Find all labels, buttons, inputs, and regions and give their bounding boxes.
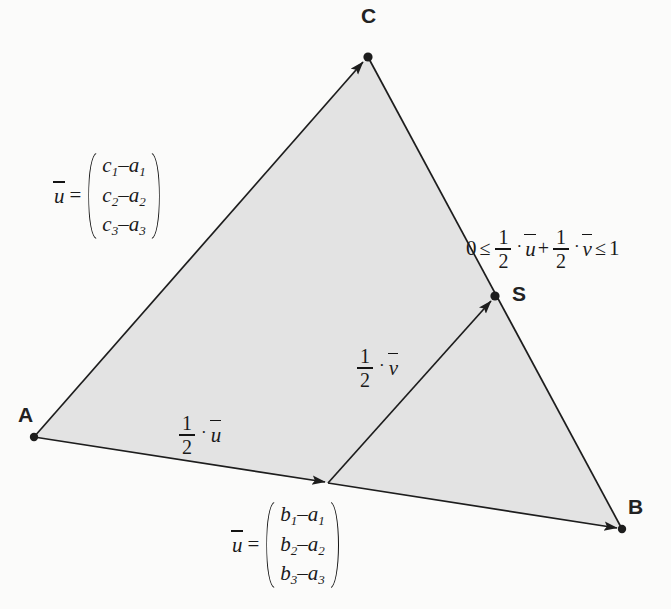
plus-sign: +: [537, 237, 550, 260]
point-a-dot: [30, 433, 38, 441]
half-v-variable: v: [389, 354, 398, 381]
vector-b-row-2: b2–a2: [280, 534, 325, 557]
multiplication-dot: ·: [377, 356, 387, 379]
vector-c-rows: c1–a1 c2–a2 c3–a3: [100, 152, 147, 240]
right-paren-icon: [328, 501, 339, 589]
point-label-c: C: [361, 5, 376, 26]
vector-b-row-1: b1–a1: [280, 504, 325, 527]
vector-c-matrix: c1–a1 c2–a2 c3–a3: [88, 152, 159, 240]
vector-c-row-2: c2–a2: [102, 185, 145, 208]
triangle-abc-fill: [34, 57, 622, 529]
multiplication-dot: ·: [514, 237, 524, 260]
fraction-one-half-v: 1 2: [551, 227, 571, 271]
vector-c-equals-sign: =: [70, 183, 82, 208]
multiplication-dot: ·: [572, 237, 582, 260]
fraction-one-half: 1 2: [355, 346, 375, 390]
less-equal-left-icon: ≤: [478, 237, 493, 260]
less-equal-right-icon: ≤: [593, 237, 608, 260]
figure-canvas: A B C S u = c1–a1 c2–a2 c3–a3: [0, 0, 671, 609]
vector-b-matrix: b1–a1 b2–a2 b3–a3: [266, 501, 339, 589]
label-half-u: 1 2 · u: [177, 412, 221, 456]
point-s-dot: [490, 291, 499, 300]
vector-b-rows: b1–a1 b2–a2 b3–a3: [278, 501, 327, 589]
vector-equation-c-minus-a: u = c1–a1 c2–a2 c3–a3: [54, 152, 160, 240]
inequality-variable-u: u: [525, 235, 536, 262]
multiplication-dot: ·: [199, 423, 209, 446]
point-label-a: A: [18, 404, 33, 425]
vector-c-variable: u: [54, 182, 65, 209]
point-c-dot: [363, 52, 372, 61]
vector-b-row-3: b3–a3: [280, 563, 325, 586]
vector-b-equals-sign: =: [248, 532, 260, 557]
vector-c-row-3: c3–a3: [102, 214, 145, 237]
point-b-dot: [618, 525, 626, 533]
point-label-s: S: [512, 283, 526, 304]
left-paren-icon: [266, 501, 277, 589]
inequality-upper-bound: 1: [609, 236, 620, 261]
inequality-lower-bound: 0: [466, 236, 477, 261]
vector-c-row-1: c1–a1: [102, 155, 145, 178]
inequality-expression: 0 ≤ 1 2 · u + 1 2 · v ≤ 1: [466, 226, 619, 270]
inequality-variable-v: v: [583, 235, 592, 262]
vector-equation-b-minus-a: u = b1–a1 b2–a2 b3–a3: [232, 501, 339, 589]
vector-b-variable: u: [232, 531, 243, 558]
point-label-b: B: [628, 496, 643, 517]
vector-c-lhs: u =: [54, 182, 81, 209]
fraction-one-half: 1 2: [177, 413, 197, 457]
label-half-v: 1 2 · v: [355, 345, 398, 389]
fraction-one-half-u: 1 2: [493, 227, 513, 271]
right-paren-icon: [149, 152, 160, 240]
vector-b-lhs: u =: [232, 531, 259, 558]
half-u-variable: u: [211, 421, 222, 448]
left-paren-icon: [88, 152, 99, 240]
